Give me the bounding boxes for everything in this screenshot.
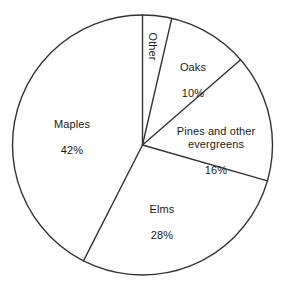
slice-label-elms: Elms 28% bbox=[131, 190, 193, 255]
slice-label-pines-name: Pines and other evergreens bbox=[157, 125, 275, 151]
slice-label-oaks: Oaks 10% bbox=[162, 48, 224, 113]
slice-label-pines: Pines and other evergreens 16% bbox=[157, 112, 275, 190]
slice-label-oaks-name: Oaks bbox=[162, 61, 224, 74]
slice-label-oaks-percent: 10% bbox=[162, 87, 224, 100]
slice-label-maples: Maples 42% bbox=[30, 105, 114, 170]
slice-label-elms-percent: 28% bbox=[131, 229, 193, 242]
slice-label-elms-name: Elms bbox=[131, 203, 193, 216]
pie-chart: Maples 42% Other Oaks 10% Pines and othe… bbox=[0, 0, 283, 290]
slice-label-other-name: Other bbox=[146, 24, 159, 70]
slice-label-pines-percent: 16% bbox=[157, 164, 275, 177]
slice-label-maples-percent: 42% bbox=[30, 144, 114, 157]
slice-label-maples-name: Maples bbox=[30, 118, 114, 131]
